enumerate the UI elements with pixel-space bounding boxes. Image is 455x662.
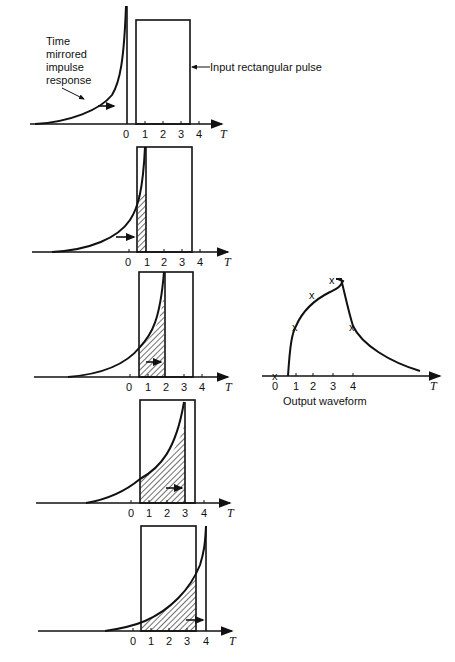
svg-text:x: x <box>309 289 315 301</box>
svg-text:x: x <box>329 274 335 286</box>
svg-text:0: 0 <box>125 256 131 268</box>
svg-text:4: 4 <box>197 256 203 268</box>
panel-3: 0 1 2 3 4 T <box>34 272 233 394</box>
panel-5: 0 1 2 3 4 T <box>38 526 237 648</box>
svg-text:T: T <box>224 255 232 269</box>
svg-text:x: x <box>292 321 298 333</box>
svg-text:T: T <box>430 379 438 393</box>
overlap-hatch <box>139 300 164 377</box>
impulse-label-line2: mirrored <box>46 48 87 60</box>
svg-text:1: 1 <box>293 380 299 392</box>
svg-text:0: 0 <box>128 507 134 519</box>
input-pulse-rect <box>136 20 190 124</box>
panel-1: Time mirrored impulse response Input rec… <box>30 6 322 141</box>
output-waveform-label: Output waveform <box>283 395 367 407</box>
panel-4: 0 1 2 3 4 T <box>36 400 235 520</box>
impulse-label-arrow <box>62 88 84 99</box>
axis-var: T <box>220 127 228 141</box>
panel-2: 0 1 2 3 4 T <box>32 147 232 269</box>
svg-text:1: 1 <box>144 256 150 268</box>
overlap-hatch <box>140 424 185 503</box>
output-waveform-panel: x x x x x 0 1 2 3 4 T Output waveform <box>262 274 440 407</box>
svg-text:T: T <box>227 506 235 520</box>
tick-2: 2 <box>160 128 166 140</box>
impulse-label-line3: impulse <box>46 61 84 73</box>
svg-text:1: 1 <box>145 381 151 393</box>
tick-4: 4 <box>196 128 202 140</box>
impulse-label-line4: response <box>46 74 91 86</box>
tick-1: 1 <box>142 128 148 140</box>
svg-text:x: x <box>349 321 355 333</box>
svg-text:3: 3 <box>184 635 190 647</box>
svg-text:4: 4 <box>350 380 356 392</box>
convolution-diagram: Time mirrored impulse response Input rec… <box>0 0 455 662</box>
svg-text:0: 0 <box>272 380 278 392</box>
svg-text:3: 3 <box>179 256 185 268</box>
svg-text:2: 2 <box>310 380 316 392</box>
svg-text:T: T <box>225 380 233 394</box>
svg-text:1: 1 <box>148 635 154 647</box>
svg-text:T: T <box>229 634 237 648</box>
svg-text:0: 0 <box>130 635 136 647</box>
svg-text:2: 2 <box>163 381 169 393</box>
svg-text:4: 4 <box>201 507 207 519</box>
svg-text:2: 2 <box>161 256 167 268</box>
svg-text:3: 3 <box>330 380 336 392</box>
pulse-label: Input rectangular pulse <box>210 61 322 73</box>
output-markers: x x x x x <box>272 274 355 382</box>
impulse-label-line1: Time <box>46 35 70 47</box>
overlap-hatch <box>138 194 146 252</box>
tick-0: 0 <box>123 128 129 140</box>
svg-text:2: 2 <box>166 635 172 647</box>
tick-3: 3 <box>178 128 184 140</box>
svg-text:0: 0 <box>126 381 132 393</box>
svg-text:4: 4 <box>203 635 209 647</box>
svg-text:3: 3 <box>182 507 188 519</box>
svg-text:1: 1 <box>146 507 152 519</box>
svg-text:2: 2 <box>164 507 170 519</box>
svg-text:3: 3 <box>181 381 187 393</box>
svg-text:4: 4 <box>199 381 205 393</box>
